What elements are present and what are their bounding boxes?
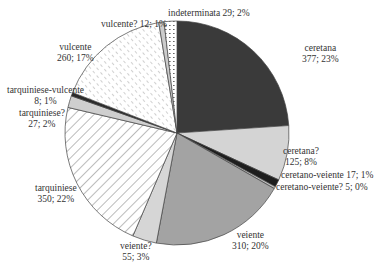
label-ceretana-value: 377; 23% bbox=[302, 54, 339, 65]
label-vulcente-q: vulcente? 12; 1% bbox=[101, 19, 167, 30]
label-ceretana-q: ceretana? 125; 8% bbox=[283, 146, 319, 168]
label-veiente: veiente 310; 20% bbox=[232, 230, 269, 252]
label-tarquiniese-vulcente: tarquiniese-vulcente 8; 1% bbox=[7, 85, 84, 107]
label-tarq-vulc-name: tarquiniese-vulcente bbox=[7, 85, 84, 96]
label-tarquiniese-q: tarquiniese? 27; 2% bbox=[19, 108, 65, 130]
label-tarquiniese-name: tarquiniese bbox=[35, 183, 77, 194]
label-veiente-q: veiente? 55; 3% bbox=[120, 241, 152, 263]
label-ceretana: ceretana 377; 23% bbox=[302, 43, 339, 65]
label-vulcente-name: vulcente bbox=[57, 42, 94, 53]
label-ceretana-name: ceretana bbox=[302, 43, 339, 54]
label-tarquiniese-q-name: tarquiniese? bbox=[19, 108, 65, 119]
label-tarquiniese: tarquiniese 350; 22% bbox=[35, 183, 77, 205]
label-veiente-q-value: 55; 3% bbox=[120, 252, 152, 263]
label-ceretana-q-name: ceretana? bbox=[283, 146, 319, 157]
label-indeterminata: indeterminata 29; 2% bbox=[168, 8, 250, 19]
label-veiente-q-name: veiente? bbox=[120, 241, 152, 252]
label-veiente-value: 310; 20% bbox=[232, 241, 269, 252]
label-ceretano-veiente-q: ceretano-veiente? 5; 0% bbox=[276, 182, 368, 193]
pie-slices bbox=[65, 21, 289, 245]
label-vulcente: vulcente 260; 17% bbox=[57, 42, 94, 64]
label-tarq-vulc-value: 8; 1% bbox=[7, 96, 84, 107]
pie-slice-ceretana bbox=[177, 21, 289, 133]
label-vulcente-value: 260; 17% bbox=[57, 53, 94, 64]
label-veiente-name: veiente bbox=[232, 230, 269, 241]
label-tarquiniese-value: 350; 22% bbox=[35, 194, 77, 205]
label-ceretano-veiente: ceretano-veiente 17; 1% bbox=[281, 170, 373, 181]
pie-chart bbox=[0, 0, 375, 266]
label-ceretana-q-value: 125; 8% bbox=[283, 157, 319, 168]
label-tarquiniese-q-value: 27; 2% bbox=[19, 119, 65, 130]
